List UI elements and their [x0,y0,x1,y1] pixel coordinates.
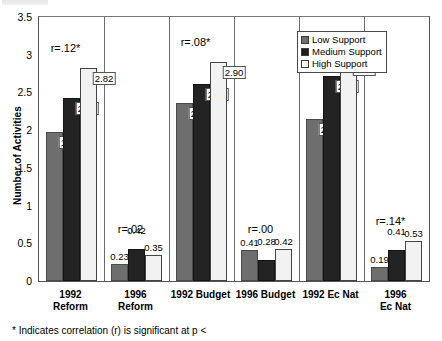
bar-low [176,103,193,281]
bar-low [241,250,258,281]
bar-value-label: 2.90 [223,66,246,79]
chart-figure: Number of Activities 00.511.522.533.5 1.… [0,0,442,341]
bar-value-label: 0.19 [370,254,389,265]
chart-legend: Low Support Medium Support High Support [297,31,387,73]
legend-swatch-low-support [301,36,309,44]
bar-low [46,132,63,281]
bar-value-label: 0.23 [110,251,129,262]
bar-value-label: 0.41 [240,237,259,248]
y-tick-label: 2.5 [17,87,32,97]
bar-low [111,264,128,281]
group-separator [234,17,235,281]
legend-label-medium-support: Medium Support [312,46,382,58]
x-tick-label: 1992 Budget [171,289,230,301]
scan-artifact [2,0,48,5]
x-tick-label: 1992 Ec Nat [302,289,358,301]
bar-value-label: 0.53 [404,228,423,239]
bar-low [371,267,388,281]
y-tick-label: 0 [26,276,32,286]
bar-low [306,119,323,281]
x-tick-label: 1996 Ec Nat [378,289,413,313]
bar-value-label: 0.28 [257,236,276,247]
y-tick-label: 3.5 [17,12,32,22]
legend-item-medium-support: Medium Support [301,46,382,58]
bar-high [80,68,97,281]
bar-med [388,250,405,281]
correlation-annotation: r=.02 [118,223,143,235]
y-tick-label: 1 [26,201,32,211]
correlation-annotation: r=.12* [51,42,81,54]
x-tick-label: 1996 Reform [118,289,153,313]
bar-med [323,76,340,281]
bar-high [145,255,162,281]
y-tick-label: 0.5 [17,238,32,248]
bar-med [258,260,275,281]
bar-high [340,59,357,281]
bar-value-label: 0.41 [387,226,406,237]
bar-med [128,249,145,281]
group-separator [169,17,170,281]
legend-item-high-support: High Support [301,58,382,70]
bar-med [193,84,210,281]
legend-label-high-support: High Support [312,58,367,70]
correlation-annotation: r=.08* [181,36,211,48]
x-axis-category-labels: 1992 Reform1996 Reform1992 Budget1996 Bu… [38,285,430,319]
bar-high [210,62,227,281]
correlation-annotation: r=.00 [248,223,273,235]
x-tick-label: 1992 Reform [53,289,88,313]
y-tick-label: 1.5 [17,163,32,173]
group-separator [104,17,105,281]
bar-value-label: 0.35 [144,242,163,253]
y-axis-tick-labels: 00.511.522.533.5 [0,16,36,282]
chart-footnote: * Indicates correlation (r) is significa… [12,325,206,336]
x-tick-label: 1996 Budget [236,289,295,301]
bar-high [275,249,292,281]
correlation-annotation: r=.14* [376,215,406,227]
bar-high [405,241,422,281]
y-tick-label: 2 [26,125,32,135]
bar-value-label: 2.82 [93,72,116,85]
legend-label-low-support: Low Support [312,34,365,46]
legend-swatch-medium-support [301,48,309,56]
legend-swatch-high-support [301,60,309,68]
legend-item-low-support: Low Support [301,34,382,46]
bar-med [63,98,80,281]
y-tick-label: 3 [26,50,32,60]
bar-value-label: 0.42 [274,236,293,247]
